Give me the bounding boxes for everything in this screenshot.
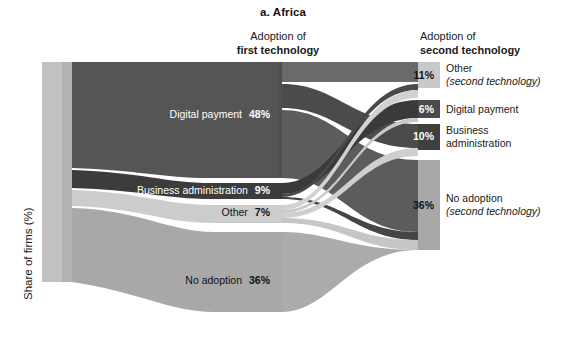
- first-stage-label-digital-payment: Digital payment48%: [120, 108, 270, 120]
- second-stage-label-business-administration: Business administration: [446, 124, 511, 149]
- second-stage-percent-other: 11%: [398, 69, 434, 81]
- node-first-other: [278, 205, 282, 223]
- sankey-flow-canvas: [0, 0, 566, 342]
- link-african-firms-to-no-adoption: [72, 208, 282, 312]
- first-stage-label-other: Other7%: [120, 206, 270, 218]
- second-stage-label-no-adoption: No adoption (second technology): [446, 192, 541, 217]
- node-first-no-adoption: [278, 232, 282, 312]
- node-first-digital-payment: [278, 62, 282, 178]
- second-stage-percent-business-administration: 10%: [398, 130, 434, 142]
- link-african-firms-to-digital-payment: [72, 62, 282, 178]
- second-stage-label-digital-payment: Digital payment: [446, 103, 518, 116]
- first-stage-label-no-adoption: No adoption36%: [120, 274, 270, 286]
- second-stage-percent-no-adoption: 36%: [398, 199, 434, 211]
- first-stage-label-business-administration: Business administration9%: [78, 184, 270, 196]
- second-stage-label-other: Other (second technology): [446, 62, 541, 87]
- sankey-chart: a. Africa Adoption of first technology A…: [0, 0, 566, 342]
- node-african-firms-edge: [62, 62, 72, 282]
- second-stage-percent-digital-payment: 6%: [398, 103, 434, 115]
- node-first-business-administration: [278, 183, 282, 199]
